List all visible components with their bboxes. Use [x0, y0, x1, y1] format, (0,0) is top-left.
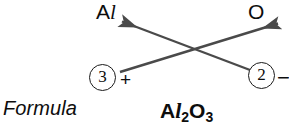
- element-symbol-aluminum-prefix: A: [96, 0, 110, 23]
- formula-caption-label: Formula: [3, 98, 77, 118]
- charge-circle-oxygen: 2: [248, 62, 275, 89]
- resulting-chemical-formula: Al2O3: [160, 100, 213, 124]
- element-symbol-aluminum: Al: [96, 1, 116, 23]
- element-symbol-oxygen-text: O: [248, 0, 264, 23]
- arrow-anion-charge-to-aluminum: [122, 22, 250, 71]
- element-symbol-oxygen: O: [248, 1, 264, 22]
- charge-number-oxygen: 2: [257, 66, 266, 83]
- formula-element2: O: [189, 99, 205, 122]
- charge-number-aluminum: 3: [98, 68, 107, 85]
- formula-subscript-2: 3: [205, 109, 213, 125]
- charge-sign-positive: +: [120, 70, 131, 89]
- charge-sign-negative: −: [277, 68, 289, 87]
- formula-subscript-1: 2: [181, 109, 189, 125]
- criss-cross-formula-diagram: Al O 3 + 2 − Formula Al2O3: [0, 0, 289, 130]
- element-symbol-aluminum-suffix: l: [110, 0, 116, 24]
- formula-element1-prefix: A: [160, 99, 175, 122]
- charge-circle-aluminum: 3: [89, 64, 116, 91]
